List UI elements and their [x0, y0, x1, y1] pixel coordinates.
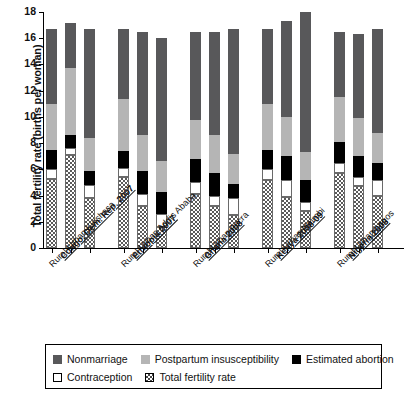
- bar-segment-nonmarriage: [65, 23, 76, 69]
- bar-segment-postpartum-insusceptibility: [353, 118, 364, 156]
- chart-legend: Nonmarriage Postpartum insusceptibility …: [45, 344, 382, 389]
- y-tick: [39, 38, 44, 39]
- legend-row-1: Nonmarriage Postpartum insusceptibility …: [53, 350, 375, 368]
- y-tick-label: 4: [8, 189, 36, 201]
- y-tick: [39, 143, 44, 144]
- bar-segment-postpartum-insusceptibility: [262, 104, 273, 150]
- y-tick-label: 0: [8, 241, 36, 253]
- bar-stack: [334, 32, 345, 248]
- y-tick: [39, 91, 44, 92]
- legend-label-nonmarriage: Nonmarriage: [67, 353, 128, 365]
- bar-segment-total-fertility-rate: [334, 173, 345, 248]
- bar-segment-contraception: [137, 194, 148, 206]
- bar-segment-estimated-abortion: [228, 184, 239, 198]
- bar-segment-nonmarriage: [334, 32, 345, 98]
- x-tick: [234, 248, 235, 253]
- y-tick: [39, 222, 44, 223]
- legend-label-contraception: Contraception: [67, 371, 132, 383]
- bar-segment-contraception: [300, 202, 311, 211]
- bar-segment-total-fertility-rate: [46, 179, 57, 248]
- x-tick: [52, 248, 53, 253]
- bar-segment-estimated-abortion: [353, 156, 364, 177]
- bar-segment-contraception: [372, 180, 383, 196]
- bar-segment-postpartum-insusceptibility: [118, 99, 129, 151]
- bar-segment-estimated-abortion: [65, 135, 76, 148]
- y-axis-line: [43, 12, 44, 249]
- bar-segment-estimated-abortion: [262, 150, 273, 170]
- legend-item-tfr: Total fertility rate: [145, 371, 235, 383]
- bar-segment-nonmarriage: [46, 29, 57, 104]
- y-tick-label: 2: [8, 215, 36, 227]
- legend-label-abortion: Estimated abortion: [306, 353, 394, 365]
- y-tick-label: 12: [8, 84, 36, 96]
- x-tick: [124, 248, 125, 253]
- y-tick-label: 14: [8, 57, 36, 69]
- contraception-swatch-icon: [53, 373, 62, 382]
- legend-label-postpartum: Postpartum insusceptibility: [155, 353, 279, 365]
- y-tick-label: 16: [8, 31, 36, 43]
- y-tick: [39, 196, 44, 197]
- bar-segment-contraception: [46, 169, 57, 178]
- bar-segment-postpartum-insusceptibility: [281, 117, 292, 156]
- bar-stack: [281, 21, 292, 248]
- bar-segment-estimated-abortion: [118, 151, 129, 168]
- bar-segment-estimated-abortion: [281, 156, 292, 180]
- bar-stack: [209, 32, 220, 248]
- bar-segment-estimated-abortion: [372, 163, 383, 180]
- bar-segment-nonmarriage: [372, 29, 383, 133]
- bar-segment-nonmarriage: [209, 32, 220, 136]
- bar-segment-postpartum-insusceptibility: [46, 104, 57, 150]
- y-tick: [39, 248, 44, 249]
- bar-segment-estimated-abortion: [334, 142, 345, 163]
- legend-label-tfr: Total fertility rate: [159, 371, 235, 383]
- bar-segment-postpartum-insusceptibility: [156, 161, 167, 191]
- legend-item-abortion: Estimated abortion: [292, 353, 394, 365]
- bar-segment-contraception: [65, 148, 76, 155]
- bar-segment-nonmarriage: [281, 21, 292, 117]
- bar-segment-estimated-abortion: [84, 171, 95, 185]
- x-tick: [306, 248, 307, 253]
- x-tick: [378, 248, 379, 253]
- bar-segment-nonmarriage: [353, 34, 364, 118]
- bar-stack: [46, 29, 57, 248]
- bar-segment-contraception: [334, 163, 345, 173]
- nonmarriage-swatch-icon: [53, 355, 62, 364]
- bar-segment-estimated-abortion: [300, 180, 311, 202]
- postpartum-swatch-icon: [141, 355, 150, 364]
- y-tick-label: 8: [8, 136, 36, 148]
- bar-segment-estimated-abortion: [190, 159, 201, 183]
- bar-segment-nonmarriage: [84, 29, 95, 138]
- bar-stack: [65, 23, 76, 249]
- tfr-swatch-icon: [145, 373, 154, 382]
- bar-segment-contraception: [209, 196, 220, 206]
- legend-item-nonmarriage: Nonmarriage: [53, 353, 128, 365]
- bar-segment-contraception: [281, 180, 292, 197]
- bar-segment-nonmarriage: [300, 12, 311, 152]
- y-tick: [39, 169, 44, 170]
- bar-segment-estimated-abortion: [156, 192, 167, 214]
- bar-segment-postpartum-insusceptibility: [65, 68, 76, 135]
- bar-segment-postpartum-insusceptibility: [84, 138, 95, 171]
- y-tick-label: 10: [8, 110, 36, 122]
- bar-segment-postpartum-insusceptibility: [300, 152, 311, 180]
- y-tick-label: 6: [8, 162, 36, 174]
- x-tick: [268, 248, 269, 253]
- bar-segment-total-fertility-rate: [262, 180, 273, 248]
- bar-segment-nonmarriage: [190, 32, 201, 120]
- bar-segment-postpartum-insusceptibility: [228, 154, 239, 184]
- bar-segment-nonmarriage: [156, 38, 167, 161]
- bar-segment-nonmarriage: [137, 32, 148, 136]
- y-tick-label: 18: [8, 5, 36, 17]
- y-tick: [39, 12, 44, 13]
- bar-segment-postpartum-insusceptibility: [190, 120, 201, 159]
- bar-segment-nonmarriage: [262, 29, 273, 104]
- y-tick: [39, 64, 44, 65]
- bar-segment-contraception: [262, 169, 273, 179]
- bar-stack: [353, 34, 364, 248]
- bar-segment-contraception: [84, 185, 95, 198]
- bar-stack: [137, 32, 148, 248]
- x-tick: [162, 248, 163, 253]
- bar-stack: [262, 29, 273, 248]
- bar-segment-estimated-abortion: [137, 171, 148, 195]
- legend-row-2: Contraception Total fertility rate: [53, 368, 375, 386]
